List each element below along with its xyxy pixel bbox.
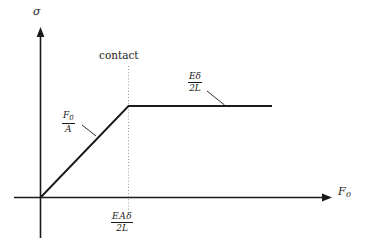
slope-fraction: F0 A bbox=[62, 110, 75, 134]
slope-label-leader-line bbox=[82, 125, 96, 136]
x-tick-fraction: EAδ 2L bbox=[111, 211, 133, 233]
slope-fraction-numerator: F0 bbox=[62, 110, 75, 124]
plot-canvas bbox=[0, 0, 372, 250]
x-axis-arrowhead bbox=[322, 194, 332, 202]
x-tick-fraction-numerator: EAδ bbox=[111, 211, 133, 223]
plateau-fraction: Eδ 2L bbox=[188, 71, 202, 93]
x-axis-label-symbol: F bbox=[338, 185, 346, 198]
slope-numerator-subscript: 0 bbox=[69, 114, 73, 122]
y-axis-arrowhead bbox=[37, 27, 45, 37]
stress-response-curve bbox=[41, 106, 273, 198]
x-tick-fraction-denominator: 2L bbox=[111, 223, 133, 234]
contact-annotation-label: contact bbox=[99, 50, 139, 61]
slope-annotation-label: F0 A bbox=[62, 110, 75, 134]
plateau-label-leader-line bbox=[207, 91, 225, 105]
x-axis-label-subscript: 0 bbox=[346, 190, 351, 199]
x-tick-label: EAδ 2L bbox=[111, 211, 133, 233]
slope-fraction-denominator: A bbox=[62, 124, 75, 135]
plateau-fraction-denominator: 2L bbox=[188, 83, 202, 94]
x-axis-label: F0 bbox=[338, 186, 351, 199]
stress-force-diagram: σ F0 contact F0 A Eδ 2L EAδ 2L bbox=[0, 0, 372, 250]
plateau-annotation-label: Eδ 2L bbox=[188, 71, 202, 93]
plateau-fraction-numerator: Eδ bbox=[188, 71, 202, 83]
y-axis-label: σ bbox=[33, 6, 41, 17]
